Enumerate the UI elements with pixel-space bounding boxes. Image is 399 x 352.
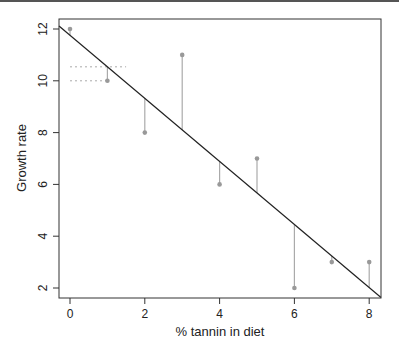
data-point [180, 53, 185, 58]
x-axis-label: % tannin in diet [176, 324, 265, 339]
y-tick-label: 4 [36, 233, 50, 240]
regression-line [59, 26, 381, 297]
y-axis-label: Growth rate [14, 124, 29, 192]
x-tick-label: 2 [141, 307, 148, 321]
data-point [292, 286, 297, 291]
data-point [105, 79, 110, 84]
y-tick-label: 2 [36, 284, 50, 291]
data-point [255, 156, 260, 161]
x-tick-label: 0 [67, 307, 74, 321]
y-axis: 24681012 [36, 22, 59, 291]
data-point [330, 260, 335, 265]
y-tick-label: 6 [36, 181, 50, 188]
y-tick-label: 10 [36, 74, 50, 88]
dotted-guides [70, 67, 126, 81]
scatter-chart: 02468 24681012 % tannin in diet Growth r… [0, 0, 399, 352]
x-axis: 02468 [67, 298, 373, 321]
data-point [217, 182, 222, 187]
data-point [367, 260, 372, 265]
y-tick-label: 12 [36, 22, 50, 36]
x-tick-label: 6 [291, 307, 298, 321]
data-point [68, 27, 73, 32]
data-point [143, 130, 148, 135]
y-tick-label: 8 [36, 129, 50, 136]
x-tick-label: 4 [216, 307, 223, 321]
x-tick-label: 8 [366, 307, 373, 321]
